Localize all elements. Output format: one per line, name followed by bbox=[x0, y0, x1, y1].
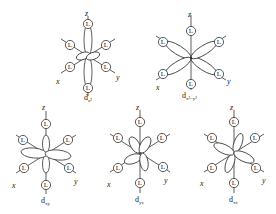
svg-text:L: L bbox=[104, 41, 108, 49]
svg-text:L: L bbox=[44, 120, 48, 128]
svg-text:L: L bbox=[116, 134, 120, 142]
diagram-dxz: L L L L L L bbox=[204, 110, 264, 193]
svg-text:L: L bbox=[254, 164, 258, 172]
svg-text:L: L bbox=[86, 84, 90, 92]
svg-text:L: L bbox=[210, 134, 214, 142]
axis-label-x: x bbox=[11, 181, 16, 190]
svg-text:L: L bbox=[86, 20, 90, 28]
svg-text:L: L bbox=[232, 118, 236, 126]
axis-label-y: y bbox=[261, 176, 266, 185]
axis-label-y: y bbox=[115, 73, 120, 82]
diagram-dyz: L L L L L L bbox=[110, 110, 170, 193]
svg-text:L: L bbox=[161, 70, 165, 78]
orbital-label-dyz: dyz bbox=[135, 195, 145, 205]
axis-label-y: y bbox=[163, 176, 168, 185]
axis-label-x: x bbox=[55, 77, 60, 86]
svg-text:L: L bbox=[44, 181, 48, 189]
diagram-dx2-y2: L L L L L L bbox=[156, 15, 226, 90]
svg-text:L: L bbox=[189, 27, 193, 35]
svg-text:L: L bbox=[138, 118, 142, 126]
svg-text:L: L bbox=[68, 41, 72, 49]
axis-label-x: x bbox=[106, 180, 111, 189]
svg-text:L: L bbox=[161, 38, 165, 46]
svg-text:L: L bbox=[253, 134, 257, 142]
svg-text:L: L bbox=[161, 163, 165, 171]
diagram-dz2: L L L L L L bbox=[61, 16, 115, 96]
svg-text:L: L bbox=[67, 164, 71, 172]
axis-label-z: z bbox=[229, 103, 234, 112]
svg-text:L: L bbox=[116, 164, 120, 172]
svg-text:L: L bbox=[189, 80, 193, 88]
axis-label-z: z bbox=[41, 103, 46, 112]
svg-text:L: L bbox=[68, 63, 72, 71]
svg-text:L: L bbox=[138, 179, 142, 187]
svg-text:L: L bbox=[104, 63, 108, 71]
axis-label-y: y bbox=[73, 177, 78, 186]
svg-text:L: L bbox=[160, 134, 164, 142]
svg-text:L: L bbox=[21, 136, 25, 144]
axis-label-z: z bbox=[135, 103, 140, 112]
diagram-dxy: L L L L L L bbox=[16, 111, 76, 194]
axis-label-x: x bbox=[199, 179, 204, 188]
svg-text:L: L bbox=[217, 70, 221, 78]
axis-label-y: y bbox=[226, 77, 231, 86]
orbital-label-dxy: dxy bbox=[41, 196, 51, 206]
svg-text:L: L bbox=[232, 179, 236, 187]
orbital-label-dxz: dxz bbox=[229, 195, 239, 205]
svg-text:L: L bbox=[217, 38, 221, 46]
axis-label-x: x bbox=[155, 83, 160, 92]
svg-text:L: L bbox=[210, 164, 214, 172]
svg-text:L: L bbox=[22, 164, 26, 172]
orbital-label-dx2-y2: dx²−y² bbox=[182, 91, 197, 101]
orbital-diagrams: L L L L L L z x y dz² L L L L L L z x y … bbox=[0, 0, 276, 214]
svg-text:L: L bbox=[66, 136, 70, 144]
